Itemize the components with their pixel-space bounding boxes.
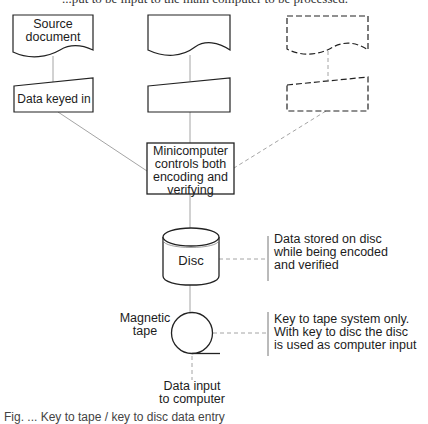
minicomputer-line-4: verifying <box>147 184 234 197</box>
data-input-label: Data input to computer <box>152 380 232 406</box>
clipped-bottom-text: Fig. ... Key to tape / key to disc data … <box>0 410 428 424</box>
manual-input-shape-3-dashed <box>287 77 368 111</box>
disc-annotation-line-3: and verified <box>274 259 388 272</box>
magnetic-tape-reel <box>172 313 221 354</box>
disc-annotation: Data stored on disc while being encoded … <box>274 233 388 272</box>
magnetic-tape-label: Magnetic tape <box>115 312 175 338</box>
magnetic-tape-line-2: tape <box>115 325 175 338</box>
manual-input-shape-2 <box>148 78 230 112</box>
source-document-label: Source document <box>13 18 93 44</box>
minicomputer-label: Minicomputer controls both encoding and … <box>147 145 234 197</box>
document-shape-2 <box>148 15 230 55</box>
connector-input1-processor <box>58 112 147 171</box>
disc-label: Disc <box>163 254 219 267</box>
document-shape-3-dashed <box>287 16 368 54</box>
data-keyed-in-label: Data keyed in <box>14 93 94 106</box>
connector-input3-processor <box>234 111 326 168</box>
tape-annotation-line-3: is used as computer input <box>274 339 416 352</box>
tape-annotation: Key to tape system only. With key to dis… <box>274 313 416 352</box>
data-input-line-2: to computer <box>152 393 232 406</box>
